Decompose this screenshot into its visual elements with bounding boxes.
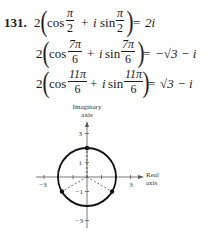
x-axis-label-2: axis (146, 179, 158, 187)
y-tick-pos3: 3 (79, 130, 83, 138)
x-axis: −3 3 (36, 175, 144, 189)
y-axis-label-2: axis (81, 111, 93, 119)
y-tick-neg3: −3 (76, 217, 84, 225)
x-tick-pos3: 3 (129, 181, 133, 189)
complex-plane-graph: Imaginary axis Real axis −3 3 3 1 −1 −3 (0, 0, 215, 231)
point-2i (85, 146, 89, 150)
y-axis-label: Imaginary (73, 103, 102, 111)
x-tick-neg3: −3 (39, 181, 47, 189)
y-tick-pos1: 1 (79, 159, 83, 167)
y-tick-neg1: −1 (76, 188, 84, 196)
point-sqrt3-minus-i (110, 189, 114, 193)
point-neg-sqrt3-minus-i (60, 189, 64, 193)
x-axis-label: Real (146, 171, 159, 179)
y-axis: 3 1 −1 −3 (76, 121, 89, 228)
